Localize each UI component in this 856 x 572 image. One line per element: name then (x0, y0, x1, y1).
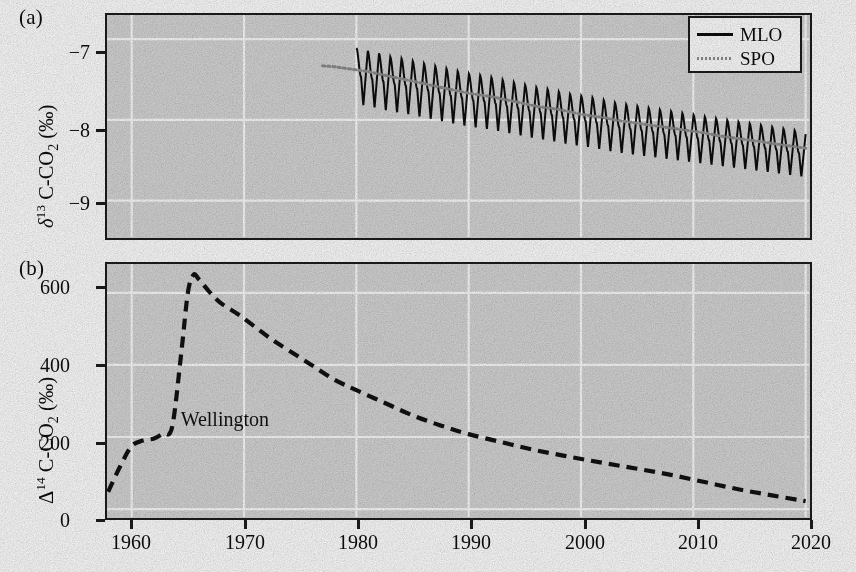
panel-b-ytick-mark-2 (96, 442, 105, 445)
panel-a-letter: (a) (19, 7, 43, 28)
xtick-label-2010: 2010 (663, 532, 733, 552)
xtick-mark-2010 (697, 520, 700, 529)
panel-b-ytick-label-1: 400 (12, 355, 70, 375)
legend-row-spo: SPO (690, 46, 800, 70)
panel-b: (b) Δ14 C-CO2 (‰) 600 400 200 0 Wellingt… (0, 250, 856, 572)
xtick-mark-1960 (130, 520, 133, 529)
panel-b-svg (107, 264, 809, 517)
panel-a-ytick-mark-0 (96, 51, 105, 54)
panel-a: (a) δ13 C-CO2 (‰) −7 −8 −9 MLO SPO (0, 0, 856, 250)
xtick-mark-2000 (584, 520, 587, 529)
xtick-mark-1990 (470, 520, 473, 529)
unit-text: (‰) (35, 377, 57, 416)
legend-line-dotted-icon (697, 52, 733, 64)
species-subscript: 2 (46, 144, 61, 151)
panel-b-plot-area: Wellington (105, 262, 812, 520)
xtick-label-2020: 2020 (776, 532, 846, 552)
isotope-superscript: 14 (33, 477, 48, 491)
panel-b-ytick-mark-0 (96, 286, 105, 289)
legend-row-mlo: MLO (690, 22, 800, 46)
species-subscript: 2 (46, 416, 61, 423)
xtick-mark-1980 (357, 520, 360, 529)
annotation-wellington: Wellington (181, 409, 269, 429)
legend: MLO SPO (688, 16, 802, 73)
legend-line-solid-icon (697, 28, 733, 40)
panel-a-ytick-label-2: −9 (32, 193, 90, 213)
xtick-mark-1970 (244, 520, 247, 529)
panel-b-ytick-label-2: 200 (12, 433, 70, 453)
panel-a-ytick-mark-2 (96, 202, 105, 205)
delta-capital-symbol: Δ (35, 491, 57, 504)
xtick-label-1970: 1970 (210, 532, 280, 552)
delta-symbol: δ (35, 218, 57, 228)
panel-b-ytick-label-0: 600 (12, 277, 70, 297)
xtick-label-2000: 2000 (550, 532, 620, 552)
xtick-label-1980: 1980 (323, 532, 393, 552)
xtick-label-1990: 1990 (436, 532, 506, 552)
panel-a-ytick-label-0: −7 (32, 42, 90, 62)
panel-b-ytick-label-3: 0 (12, 510, 70, 530)
legend-label-spo: SPO (740, 49, 775, 68)
legend-label-mlo: MLO (740, 25, 782, 44)
xtick-mark-2020 (810, 520, 813, 529)
xtick-label-1960: 1960 (96, 532, 166, 552)
panel-b-ytick-mark-1 (96, 364, 105, 367)
panel-a-ytick-mark-1 (96, 129, 105, 132)
panel-a-ytick-label-1: −8 (32, 120, 90, 140)
panel-b-ytick-mark-3 (96, 519, 105, 522)
